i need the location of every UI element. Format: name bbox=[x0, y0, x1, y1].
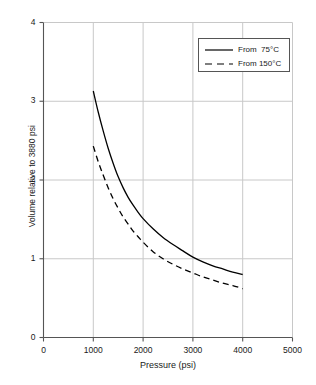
legend-item-solid: From 75°C bbox=[199, 43, 291, 56]
series-line-1 bbox=[93, 91, 242, 274]
x-tick-label: 5000 bbox=[273, 346, 313, 355]
chart-legend: From 75°C From 150°C bbox=[198, 38, 290, 72]
y-tick-label: 0 bbox=[8, 333, 36, 342]
y-axis-title: Volume relative to 3880 psi bbox=[28, 86, 37, 266]
legend-label-solid: From 75°C bbox=[238, 46, 279, 54]
x-tick-label: 3000 bbox=[173, 346, 213, 355]
chart-figure: 01234010002000300040005000 Pressure (psi… bbox=[0, 0, 316, 385]
x-tick-label: 4000 bbox=[223, 346, 263, 355]
legend-label-dashed: From 150°C bbox=[238, 60, 281, 68]
y-tick-label: 4 bbox=[8, 18, 36, 27]
x-tick-label: 1000 bbox=[73, 346, 113, 355]
x-tick-label: 2000 bbox=[123, 346, 163, 355]
legend-swatch-dashed-icon bbox=[204, 59, 234, 69]
x-axis-title: Pressure (psi) bbox=[43, 361, 293, 370]
legend-item-dashed: From 150°C bbox=[199, 57, 291, 70]
x-tick-label: 0 bbox=[24, 346, 64, 355]
legend-swatch-solid-icon bbox=[204, 45, 234, 55]
series-line-2 bbox=[93, 146, 242, 289]
